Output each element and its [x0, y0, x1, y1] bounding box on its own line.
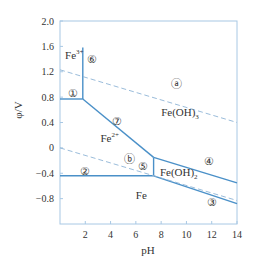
- line-marker: ①: [68, 87, 78, 99]
- y-tick-label: 1.6: [42, 41, 55, 52]
- y-tick-label: 0.8: [42, 92, 55, 103]
- line-marker: ④: [204, 155, 214, 167]
- y-tick-label: 2.0: [42, 16, 55, 27]
- x-tick-label: 8: [159, 229, 164, 240]
- x-tick-label: 12: [207, 229, 217, 240]
- x-axis-title: pH: [141, 244, 155, 256]
- line-marker: ⑥: [87, 53, 97, 65]
- x-tick-label: 6: [133, 229, 138, 240]
- y-axis-title: φ/V: [12, 101, 24, 118]
- line-markers: ①⑥⑦⑤②④③ⓐⓑ: [68, 53, 217, 208]
- region-label-fe2: Fe2+: [100, 131, 119, 144]
- x-tick-label: 10: [181, 229, 191, 240]
- boundary-line: [83, 99, 154, 157]
- region-label-fe: Fe: [136, 189, 147, 201]
- line-marker: ③: [207, 196, 217, 208]
- y-tick-label: 1.2: [42, 66, 55, 77]
- y-tick-label: 0: [49, 142, 54, 153]
- line-marker: ⓐ: [171, 78, 182, 90]
- x-tick-label: 14: [232, 229, 242, 240]
- x-tick-label: 4: [108, 229, 113, 240]
- boundary-lines: [60, 48, 237, 204]
- pourbaix-diagram: 2468101214 2.01.61.20.80.40−0.4−0.8 ①⑥⑦⑤…: [0, 0, 255, 273]
- x-tick-label: 2: [83, 229, 88, 240]
- plot-frame: [60, 21, 237, 224]
- line-marker: ⑦: [112, 115, 122, 127]
- line-marker: ⑤: [138, 160, 148, 172]
- line-marker: ⓑ: [124, 153, 135, 165]
- y-tick-label: −0.8: [36, 193, 54, 204]
- y-tick-label: −0.4: [36, 168, 54, 179]
- region-label-feoh3: Fe(OH)3: [161, 106, 199, 121]
- region-labels: Fe3+Fe2+Fe(OH)3Fe(OH)2Fe: [65, 48, 199, 201]
- boundary-line: [60, 70, 237, 123]
- y-tick-label: 0.4: [42, 117, 55, 128]
- region-label-fe3: Fe3+: [65, 48, 84, 61]
- line-marker: ②: [80, 165, 90, 177]
- y-axis-ticks: 2.01.61.20.80.40−0.4−0.8: [36, 16, 63, 205]
